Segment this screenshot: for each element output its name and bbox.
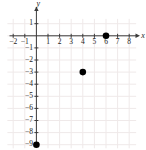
y-tick-label: −4: [25, 79, 33, 88]
y-tick-label: −1: [25, 43, 33, 52]
x-tick-label: 1: [46, 37, 50, 46]
data-point: [80, 69, 87, 76]
data-point: [33, 141, 40, 148]
x-axis-label: x: [140, 31, 145, 40]
data-point: [103, 33, 110, 40]
y-axis-label: y: [36, 0, 41, 8]
x-tick-label: 8: [127, 37, 131, 46]
y-tick-label: −2: [25, 55, 33, 64]
y-tick-label: −3: [25, 67, 33, 76]
x-tick-label: 3: [69, 37, 73, 46]
x-tick-label: 4: [81, 37, 85, 46]
x-axis-arrow-icon: [136, 34, 141, 38]
y-tick-label: −6: [25, 103, 33, 112]
x-tick-label: 7: [116, 37, 120, 46]
y-tick-label: −5: [25, 91, 33, 100]
y-tick-label: −9: [25, 139, 33, 148]
y-tick-label: 1: [29, 18, 33, 27]
coordinate-plane: xy−2−1123456781−1−2−3−4−5−6−7−8−9: [0, 0, 146, 150]
scatter-plot: xy−2−1123456781−1−2−3−4−5−6−7−8−9: [0, 0, 146, 150]
x-tick-label: 2: [58, 37, 62, 46]
x-tick-label: −2: [9, 37, 17, 46]
x-tick-label: 5: [93, 37, 97, 46]
y-tick-label: −8: [25, 127, 33, 136]
y-tick-label: −7: [25, 115, 33, 124]
